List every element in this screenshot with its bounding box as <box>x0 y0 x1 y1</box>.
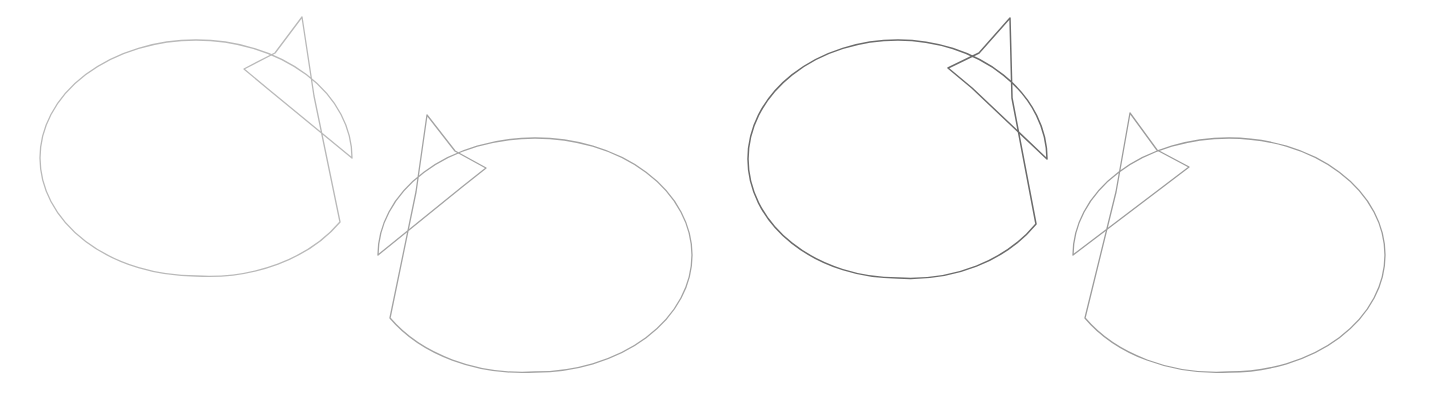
speech-bubbles-svg <box>0 0 1432 400</box>
canvas-background <box>0 0 1432 400</box>
bubble-illustration-canvas <box>0 0 1432 400</box>
